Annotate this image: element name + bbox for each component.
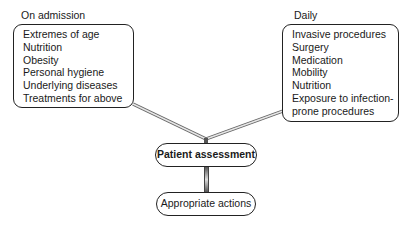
list-item: Mobility [292, 66, 398, 79]
patient-assessment-node: Patient assessment [155, 143, 257, 167]
right-group-heading: Daily [294, 9, 317, 21]
list-item: Nutrition [292, 79, 398, 92]
appropriate-actions-node: Appropriate actions [156, 192, 256, 216]
list-item: Underlying diseases [23, 79, 133, 92]
list-item: Personal hygiene [23, 66, 133, 79]
connector-left [133, 104, 206, 139]
admission-factors-box: Extremes of age Nutrition Obesity Person… [13, 24, 134, 108]
list-item: Surgery [292, 41, 398, 54]
connector-down [204, 167, 209, 192]
left-group-heading: On admission [21, 9, 85, 21]
list-item: Invasive procedures [292, 28, 398, 41]
list-item: Obesity [23, 54, 133, 67]
connector-right [206, 111, 283, 139]
list-item: prone procedures [292, 105, 398, 118]
list-item: Extremes of age [23, 28, 133, 41]
list-item: Medication [292, 54, 398, 67]
list-item: Treatments for above [23, 92, 133, 105]
daily-factors-box: Invasive procedures Surgery Medication M… [282, 24, 399, 122]
list-item: Exposure to infection- [292, 92, 398, 105]
list-item: Nutrition [23, 41, 133, 54]
